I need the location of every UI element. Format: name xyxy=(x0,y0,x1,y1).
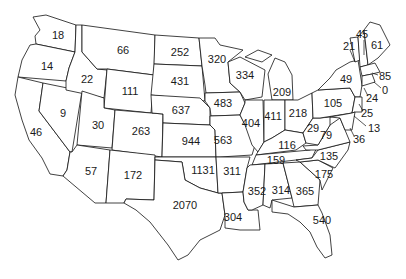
state-label-ri: 0 xyxy=(382,84,388,96)
state-label-co: 263 xyxy=(132,125,150,137)
state-label-ky: 116 xyxy=(278,139,296,151)
state-label-ks: 944 xyxy=(182,135,200,147)
state-label-ma: 85 xyxy=(379,70,391,82)
state-label-mn: 320 xyxy=(208,53,226,65)
state-label-oh: 218 xyxy=(289,107,307,119)
state-label-al: 314 xyxy=(272,184,290,196)
state-label-vt: 21 xyxy=(343,40,355,52)
state-label-ia: 483 xyxy=(214,97,232,109)
state-label-ar: 311 xyxy=(223,165,241,177)
state-label-wv: 29 xyxy=(307,122,319,134)
state-label-or: 14 xyxy=(41,60,53,72)
state-label-nm: 172 xyxy=(124,169,142,181)
state-label-sd: 431 xyxy=(171,75,189,87)
state-label-mt: 66 xyxy=(117,44,129,56)
state-label-nh: 45 xyxy=(356,28,368,40)
state-label-ny: 49 xyxy=(340,73,352,85)
state-label-il: 404 xyxy=(242,117,260,129)
state-label-ms: 352 xyxy=(248,185,266,197)
state-label-nv: 9 xyxy=(60,107,66,119)
state-label-md: 36 xyxy=(353,133,365,145)
state-label-nc: 135 xyxy=(320,150,338,162)
state-label-tn: 159 xyxy=(267,154,285,166)
state-borders xyxy=(15,15,390,260)
state-label-ut: 30 xyxy=(92,119,104,131)
state-label-wa: 18 xyxy=(52,29,64,41)
map-canvas: 1814469226611130572631722524316379441131… xyxy=(0,0,406,279)
state-label-me: 61 xyxy=(371,39,383,51)
state-label-mi: 209 xyxy=(273,86,291,98)
state-label-ca: 46 xyxy=(30,126,42,138)
state-label-ne: 637 xyxy=(172,104,190,116)
state-label-ct: 24 xyxy=(366,92,378,104)
state-label-sc: 175 xyxy=(315,168,333,180)
state-label-tx: 2070 xyxy=(173,199,197,211)
state-label-in: 411 xyxy=(264,110,282,122)
us-state-map: 1814469226611130572631722524316379441131… xyxy=(0,0,406,279)
state-label-la: 304 xyxy=(224,211,242,223)
state-label-mo: 563 xyxy=(214,134,232,146)
state-label-wi: 334 xyxy=(236,69,254,81)
state-label-nj: 25 xyxy=(361,107,373,119)
state-label-id: 22 xyxy=(81,73,93,85)
state-label-pa: 105 xyxy=(324,97,342,109)
state-label-ok: 1131 xyxy=(191,164,215,176)
state-label-nd: 252 xyxy=(171,46,189,58)
state-label-az: 57 xyxy=(85,165,97,177)
state-label-fl: 540 xyxy=(313,214,331,226)
state-label-va: 79 xyxy=(320,129,332,141)
state-label-de: 13 xyxy=(368,122,380,134)
state-label-ga: 365 xyxy=(296,185,314,197)
state-label-wy: 111 xyxy=(122,85,139,97)
